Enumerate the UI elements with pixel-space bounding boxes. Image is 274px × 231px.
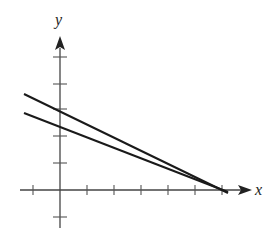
y-axis-arrow-icon (55, 36, 65, 50)
x-axis-label: x (254, 181, 262, 198)
y-axis-label: y (53, 11, 63, 29)
upper-line (24, 94, 228, 193)
lower-line (24, 113, 228, 192)
coordinate-plot: y x (0, 0, 274, 231)
